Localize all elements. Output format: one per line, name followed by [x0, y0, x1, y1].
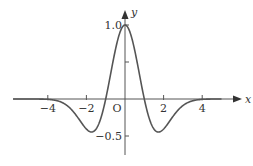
x-axis-label: x — [245, 93, 252, 106]
x-tick-label: 2 — [160, 102, 167, 115]
axis-labels: −4−2241.0−0.5xyO — [40, 6, 252, 143]
y-axis-arrow-icon — [122, 10, 129, 19]
origin-label: O — [112, 102, 121, 115]
x-tick-label: 4 — [199, 102, 206, 115]
axes — [13, 10, 242, 155]
x-tick-label: −2 — [78, 102, 94, 115]
plot-area: −4−2241.0−0.5xyO — [0, 0, 253, 166]
y-tick-label: −0.5 — [95, 130, 122, 143]
chart: −4−2241.0−0.5xyO — [0, 0, 253, 166]
function-curve — [13, 25, 221, 132]
x-axis-arrow-icon — [233, 96, 242, 103]
y-tick-label: 1.0 — [105, 19, 123, 32]
x-tick-label: −4 — [40, 102, 56, 115]
y-axis-label: y — [130, 6, 138, 19]
